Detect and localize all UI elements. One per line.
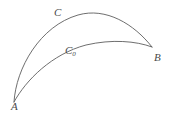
- curve-label-c-text: C: [54, 6, 61, 18]
- curve-c-outer: [14, 13, 152, 102]
- curve-c0-inner: [14, 41, 152, 102]
- point-label-a: A: [11, 101, 18, 112]
- curve-label-c: C: [54, 7, 61, 18]
- arcs-diagram: [0, 0, 175, 116]
- point-label-a-text: A: [11, 100, 18, 112]
- curve-label-c0-subscript: 0: [72, 50, 76, 58]
- point-label-b-text: B: [154, 51, 161, 63]
- figure-canvas: C C0 A B: [0, 0, 175, 116]
- curve-label-c0: C0: [65, 45, 76, 56]
- point-label-b: B: [154, 52, 161, 63]
